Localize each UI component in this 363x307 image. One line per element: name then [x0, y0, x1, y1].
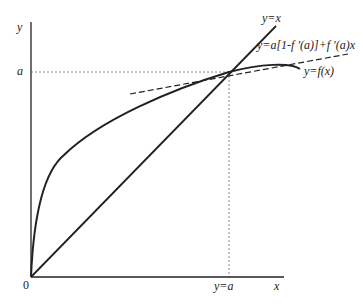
f-curve — [31, 65, 300, 277]
x-tick-label: y=a — [213, 279, 233, 293]
identity-line-label: y=x — [261, 11, 281, 25]
f-curve-label: y=f(x) — [303, 64, 334, 78]
tangent-line-label: y=a[1-f '(a)]+f '(a)x — [256, 38, 356, 52]
x-axis-label: x — [273, 279, 280, 293]
y-tick-label: a — [17, 64, 23, 78]
diagram-canvas: y a 0 y=a x y=x y=a[1-f '(a)]+f '(a)x y=… — [0, 0, 363, 307]
y-axis-label: y — [16, 20, 23, 34]
origin-label: 0 — [23, 278, 29, 292]
